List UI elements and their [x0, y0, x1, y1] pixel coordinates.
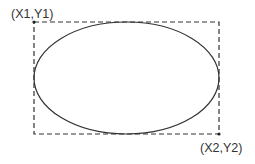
label-top-left: (X1,Y1) — [11, 7, 53, 21]
label-bottom-right: (X2,Y2) — [200, 141, 242, 155]
ellipse-bounding-box-diagram: (X1,Y1) (X2,Y2) — [0, 0, 255, 164]
bounding-box — [34, 22, 219, 134]
corner-marker-bottom-right — [217, 132, 220, 135]
ellipse — [34, 22, 219, 134]
